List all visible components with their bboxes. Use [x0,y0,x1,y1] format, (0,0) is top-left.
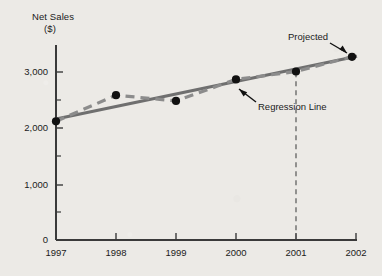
data-point-1997 [52,117,60,125]
data-point-2000 [232,75,240,83]
annotation-projected-arrow [330,43,347,53]
data-point-2001 [292,67,300,75]
regression-line [56,56,357,119]
net-sales-chart: Net Sales ($) 3,000 2,000 1,000 0 1997 1… [0,0,382,276]
annotation-regression-line-arrow [239,89,256,102]
data-point-1998 [112,91,120,99]
chart-plot-area [0,0,382,276]
y-major-ticks [56,72,63,185]
data-point-1999 [172,97,180,105]
x-axis-ticks [116,233,356,240]
data-point-2002 [348,53,356,61]
